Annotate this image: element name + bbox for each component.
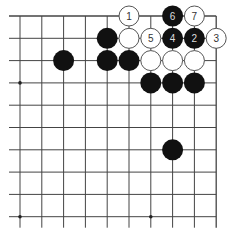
stone-disc — [119, 28, 139, 48]
star-point — [149, 215, 153, 219]
move-number: 4 — [170, 33, 176, 44]
move-number: 6 — [170, 11, 176, 22]
black-stone — [119, 50, 140, 71]
move-number: 3 — [213, 33, 219, 44]
move-number: 5 — [148, 33, 154, 44]
stone-disc — [184, 51, 204, 71]
black-stone — [162, 139, 183, 160]
white-stone-move-3: 3 — [206, 28, 226, 48]
white-stone — [141, 51, 161, 71]
white-stone — [163, 51, 183, 71]
star-point — [18, 215, 22, 219]
move-number: 2 — [192, 33, 198, 44]
stone-disc — [53, 50, 74, 71]
black-stone-move-6: 6 — [162, 6, 183, 27]
black-stone — [97, 50, 118, 71]
move-number: 1 — [126, 11, 132, 22]
black-stone-move-4: 4 — [162, 28, 183, 49]
black-stone — [53, 50, 74, 71]
stone-disc — [162, 139, 183, 160]
move-number: 7 — [192, 11, 198, 22]
white-stone-move-7: 7 — [184, 6, 204, 26]
black-stone — [162, 72, 183, 93]
grid-lines — [9, 16, 216, 228]
go-board: 1675423 — [0, 0, 232, 234]
stone-disc — [140, 72, 161, 93]
stone-disc — [162, 72, 183, 93]
stone-disc — [141, 51, 161, 71]
white-stone-move-1: 1 — [119, 6, 139, 26]
stone-disc — [97, 50, 118, 71]
black-stone — [97, 28, 118, 49]
stone-disc — [184, 72, 205, 93]
star-point — [18, 81, 22, 85]
stone-disc — [163, 51, 183, 71]
stone-disc — [97, 28, 118, 49]
white-stone-move-5: 5 — [141, 28, 161, 48]
white-stone — [184, 51, 204, 71]
white-stone — [119, 28, 139, 48]
stone-disc — [119, 50, 140, 71]
black-stone-move-2: 2 — [184, 28, 205, 49]
black-stone — [140, 72, 161, 93]
black-stone — [184, 72, 205, 93]
